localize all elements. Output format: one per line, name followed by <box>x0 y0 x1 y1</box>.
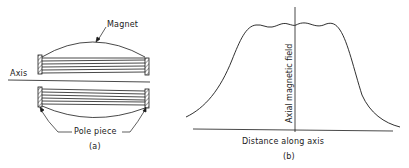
pole-piece-lower-left <box>38 87 42 107</box>
figure-b-caption: (b) <box>283 153 295 161</box>
x-axis-label: Distance along axis <box>242 138 324 146</box>
pole-piece-lower-right <box>145 89 149 108</box>
axis-label: Axis <box>10 70 27 78</box>
figure-a-solenoid <box>8 27 150 132</box>
magnet-leader-arrow <box>96 27 106 42</box>
pole-piece-upper-left <box>38 55 42 74</box>
figure-a-caption: (a) <box>89 143 101 151</box>
axis-line <box>8 80 150 82</box>
upper-magnet <box>42 42 145 73</box>
pole-piece-upper-right <box>145 58 149 75</box>
y-axis-label: Axial magnetic field <box>286 44 294 123</box>
magnet-label: Magnet <box>107 21 138 29</box>
x-axis-line <box>193 129 393 131</box>
lower-magnet <box>42 89 145 118</box>
diagram-canvas <box>0 0 409 168</box>
pole-piece-label: Pole piece <box>74 128 117 136</box>
